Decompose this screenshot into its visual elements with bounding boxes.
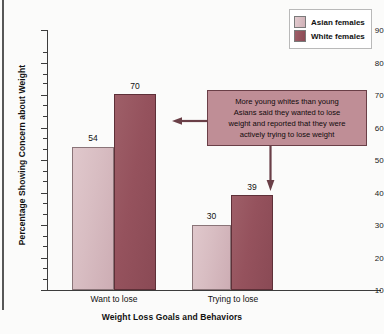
y-minor-tick [43, 171, 48, 172]
chart-figure: 90 80 70 60 50 40 30 20 10 Percentage Sh… [0, 0, 384, 334]
bar-trying-to-lose-asian-females[interactable] [192, 225, 231, 290]
y-minor-tick [43, 246, 48, 247]
legend-label-white-females: White females [311, 32, 365, 41]
legend-swatch-icon-asian-females [294, 16, 306, 28]
y-minor-tick [43, 116, 48, 117]
y-minor-tick [43, 105, 48, 106]
bar-trying-to-lose-white-females[interactable] [231, 195, 273, 290]
bar-value-want-to-lose-asian-females: 54 [72, 133, 114, 143]
bar-want-to-lose-white-females[interactable] [114, 94, 156, 290]
annotation-arrow-down-icon [266, 145, 275, 191]
y-minor-tick [43, 203, 48, 204]
y-tick-90 [41, 30, 48, 31]
y-minor-tick [43, 83, 48, 84]
legend-item-asian-females[interactable]: Asian females [294, 16, 365, 28]
annotation-line-3: weight and reported that they were [214, 118, 360, 129]
legend-label-asian-females: Asian females [311, 18, 365, 27]
y-tick-80 [41, 63, 48, 64]
x-tick-label-trying-to-lose: Trying to lose [188, 294, 278, 304]
annotation-line-2: Asians said they wanted to lose [214, 107, 360, 118]
bar-want-to-lose-asian-females[interactable] [72, 147, 114, 291]
bar-value-want-to-lose-white-females: 70 [114, 81, 156, 91]
y-tick-label-20: 20 [346, 254, 384, 263]
annotation-callout: More young whites than young Asians said… [207, 90, 367, 146]
bar-value-trying-to-lose-asian-females: 30 [192, 211, 231, 221]
annotation-arrow-left-icon [172, 117, 208, 125]
y-tick-label-40: 40 [346, 189, 384, 198]
y-minor-tick [43, 279, 48, 280]
legend-item-white-females[interactable]: White females [294, 30, 365, 42]
y-minor-tick [43, 138, 48, 139]
x-tick-label-want-to-lose: Want to lose [69, 294, 159, 304]
y-axis-title: Percentage Showing Concern about Weight [17, 45, 27, 265]
y-tick-label-80: 80 [346, 59, 384, 68]
y-tick-50 [41, 160, 48, 161]
y-tick-label-30: 30 [346, 221, 384, 230]
y-minor-tick [43, 74, 48, 75]
y-tick-label-50: 50 [346, 156, 384, 165]
y-minor-tick [43, 268, 48, 269]
y-tick-40 [41, 193, 48, 194]
y-minor-tick [43, 214, 48, 215]
y-tick-10 [41, 290, 48, 291]
y-minor-tick [43, 149, 48, 150]
y-minor-tick [43, 181, 48, 182]
x-axis-title: Weight Loss Goals and Behaviors [47, 312, 297, 322]
y-minor-tick [43, 52, 48, 53]
y-minor-tick [43, 236, 48, 237]
annotation-line-1: More young whites than young [214, 96, 360, 107]
legend: Asian females White females [289, 9, 372, 49]
y-tick-label-10: 10 [346, 286, 384, 295]
x-axis-line [47, 290, 381, 291]
legend-swatch-icon-white-females [294, 30, 306, 42]
page-edge-line [2, 0, 4, 310]
annotation-line-4: actively trying to lose weight [214, 129, 360, 140]
y-tick-60 [41, 128, 48, 129]
y-tick-30 [41, 225, 48, 226]
y-tick-20 [41, 258, 48, 259]
y-tick-70 [41, 95, 48, 96]
